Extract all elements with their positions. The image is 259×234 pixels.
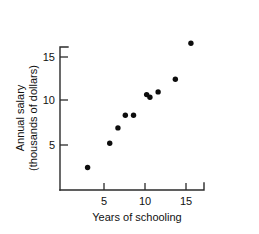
data-point xyxy=(107,141,112,146)
y-axis-line xyxy=(60,47,68,190)
y-axis-title-line1: Annual salary xyxy=(14,84,26,151)
data-point xyxy=(123,113,128,118)
x-axis-tick-labels: 5 10 15 xyxy=(101,195,192,207)
data-point xyxy=(131,113,136,118)
y-tick-label-15: 15 xyxy=(43,51,55,63)
x-axis-line xyxy=(60,183,204,190)
data-points-layer xyxy=(85,41,194,171)
data-point xyxy=(173,77,178,82)
y-axis-tick-labels: 15 10 5 xyxy=(43,51,55,151)
x-axis-title: Years of schooling xyxy=(92,211,182,223)
y-axis-title-line2: (thousands of dollars) xyxy=(27,65,39,171)
x-tick-label-10: 10 xyxy=(139,195,151,207)
y-axis-title: Annual salary (thousands of dollars) xyxy=(14,65,39,171)
y-tick-label-5: 5 xyxy=(49,139,55,151)
x-tick-label-5: 5 xyxy=(101,195,107,207)
data-point xyxy=(155,89,160,94)
data-point xyxy=(188,41,193,46)
data-point xyxy=(147,95,152,100)
data-point xyxy=(115,125,120,130)
data-point xyxy=(85,165,90,170)
x-tick-label-15: 15 xyxy=(180,195,192,207)
y-tick-label-10: 10 xyxy=(43,94,55,106)
x-axis-ticks xyxy=(104,183,186,190)
scatter-chart: 15 10 5 5 10 15 Years of schooling Annua… xyxy=(0,0,259,234)
y-axis-ticks xyxy=(60,57,68,145)
